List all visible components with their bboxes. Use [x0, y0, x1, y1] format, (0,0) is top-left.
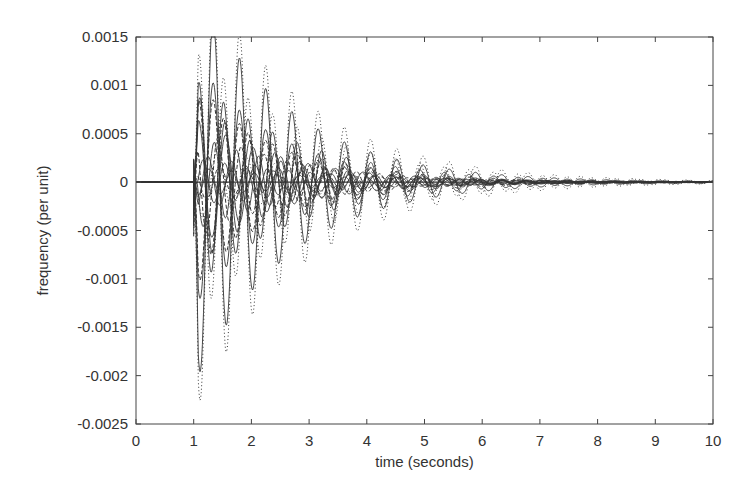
y-tick-label: 0.0015: [82, 28, 128, 45]
x-axis-ticks: 012345678910: [132, 37, 722, 449]
y-tick-label: -0.0025: [77, 415, 128, 432]
x-tick-label: 3: [305, 432, 313, 449]
y-tick-label: -0.001: [85, 270, 128, 287]
x-tick-label: 9: [651, 432, 659, 449]
x-tick-label: 8: [593, 432, 601, 449]
y-tick-label: -0.0015: [77, 318, 128, 335]
x-axis-title: time (seconds): [375, 453, 473, 470]
y-tick-label: 0.0005: [82, 125, 128, 142]
x-tick-label: 2: [247, 432, 255, 449]
y-tick-label: 0.001: [90, 76, 128, 93]
data-traces: [136, 37, 713, 400]
trace-line: [136, 100, 713, 280]
x-tick-label: 5: [420, 432, 428, 449]
x-tick-label: 7: [536, 432, 544, 449]
y-tick-label: 0: [120, 173, 128, 190]
x-tick-label: 4: [363, 432, 371, 449]
y-tick-label: -0.0005: [77, 222, 128, 239]
x-tick-label: 1: [190, 432, 198, 449]
y-axis-title: frequency (per unit): [34, 165, 51, 295]
x-tick-label: 0: [132, 432, 140, 449]
frequency-time-chart: 012345678910 0.00150.0010.00050-0.0005-0…: [0, 0, 750, 501]
x-tick-label: 10: [705, 432, 722, 449]
y-axis-ticks: 0.00150.0010.00050-0.0005-0.001-0.0015-0…: [77, 28, 713, 432]
x-tick-label: 6: [478, 432, 486, 449]
y-tick-label: -0.002: [85, 367, 128, 384]
